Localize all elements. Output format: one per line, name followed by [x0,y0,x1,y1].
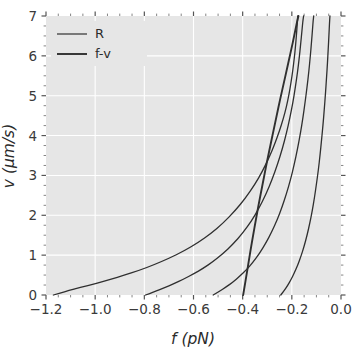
x-axis-title: f (pN) [171,330,215,348]
x-tick-label: −1.2 [30,301,63,317]
y-tick-label: 3 [28,167,37,183]
legend-label-r: R [95,26,104,41]
y-tick-label: 6 [28,48,37,64]
x-tick-labels: −1.2−1.0−0.8−0.6−0.4−0.20.0 [30,301,352,317]
x-tick-label: −0.6 [177,301,210,317]
force-velocity-chart: −1.2−1.0−0.8−0.6−0.4−0.20.0 01234567 f (… [0,0,357,356]
y-tick-label: 1 [28,247,37,263]
y-tick-label: 5 [28,88,37,104]
figure-canvas: −1.2−1.0−0.8−0.6−0.4−0.20.0 01234567 f (… [0,0,357,356]
x-tick-label: −1.0 [79,301,112,317]
x-tick-label: −0.4 [226,301,259,317]
x-tick-label: 0.0 [330,301,351,317]
y-tick-label: 0 [28,287,37,303]
y-tick-label: 2 [28,207,37,223]
y-tick-label: 7 [28,8,37,24]
legend-label-fv: f-v [95,46,111,61]
x-tick-label: −0.2 [275,301,308,317]
y-tick-label: 4 [28,128,37,144]
y-axis-title: v (µm/s) [0,124,18,188]
chart-legend: R f-v [51,21,147,66]
x-tick-label: −0.8 [128,301,161,317]
